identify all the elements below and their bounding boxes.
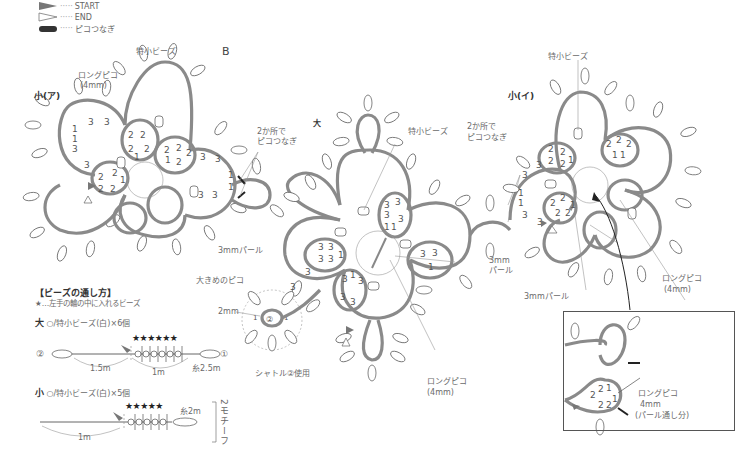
- svg-text:3: 3: [104, 117, 110, 127]
- bead-guide-small-desc: ○/特小ビーズ(白)×5個: [47, 389, 131, 398]
- svg-text:3: 3: [84, 160, 90, 170]
- svg-text:2: 2: [560, 159, 566, 169]
- shuttle-1-label: ①: [220, 349, 228, 359]
- svg-text:3: 3: [200, 152, 206, 162]
- svg-text:3: 3: [522, 170, 528, 180]
- svg-text:3: 3: [290, 282, 296, 292]
- svg-text:2: 2: [128, 144, 134, 154]
- bead-guide-large-label: 大: [35, 318, 44, 328]
- svg-text:2: 2: [98, 184, 104, 194]
- svg-text:1: 1: [570, 200, 576, 210]
- svg-text:3: 3: [305, 267, 311, 277]
- svg-text:3: 3: [215, 154, 221, 164]
- label-join-two-i-1: 2か所で: [467, 122, 496, 131]
- svg-text:3: 3: [384, 210, 390, 220]
- svg-text:3: 3: [318, 242, 324, 252]
- svg-text:1: 1: [72, 124, 78, 134]
- label-shuttle2-used: シャトル②使用: [255, 369, 310, 378]
- bead-guide-large-thread: 糸2.5m: [192, 364, 221, 373]
- bead-guide-small-label: 小: [35, 388, 44, 398]
- label-2mm: 2mm: [218, 307, 239, 316]
- svg-text:2: 2: [565, 208, 571, 218]
- svg-text:1: 1: [568, 155, 574, 165]
- svg-text:3: 3: [72, 144, 78, 154]
- bead-guide-large-desc: ○/特小ビーズ(白)×6個: [47, 319, 131, 328]
- svg-text:2: 2: [176, 143, 182, 153]
- svg-text:2: 2: [164, 145, 170, 155]
- svg-text:1: 1: [518, 188, 524, 198]
- svg-text:2: 2: [144, 144, 150, 154]
- svg-text:2: 2: [606, 139, 612, 149]
- bead-guide-large-len-mid: 1m: [152, 368, 165, 377]
- svg-text:1: 1: [620, 150, 626, 160]
- bead-guide-large-len-left: 1.5m: [90, 364, 111, 373]
- svg-text:3: 3: [350, 297, 356, 307]
- svg-text:2: 2: [626, 139, 632, 149]
- svg-text:1: 1: [350, 270, 356, 280]
- label-pearl-3mm-i-b: 3mmパール: [524, 292, 569, 301]
- label-long-picot-center: ロングピコ: [427, 377, 467, 386]
- svg-text:2: 2: [550, 198, 556, 208]
- svg-text:2: 2: [616, 135, 622, 145]
- svg-text:3: 3: [536, 160, 542, 170]
- bead-guide-small-stars: ★★★★★: [125, 401, 163, 411]
- svg-text:2: 2: [186, 148, 192, 158]
- label-extra-small-bead-i: 特小ビーズ: [548, 52, 588, 61]
- label-extra-small-bead-a: 特小ビーズ: [136, 47, 176, 56]
- motif-label-small-i: 小(イ): [508, 91, 534, 101]
- label-join-two-i-2: ピコつなぎ: [467, 133, 507, 142]
- bead-guide-title: 【ビーズの通し方】: [35, 288, 116, 298]
- bead-guide-large: 大 ○/特小ビーズ(白)×6個: [35, 318, 130, 328]
- label-long-picot-i-size: (4mm): [664, 285, 691, 294]
- svg-text:1: 1: [391, 222, 397, 232]
- svg-text:3: 3: [384, 200, 390, 210]
- inset-size: 4mm: [640, 400, 661, 409]
- svg-text:3: 3: [212, 190, 218, 200]
- svg-text:2: 2: [548, 144, 554, 154]
- end-marker-icon: [84, 196, 92, 203]
- arrow-icon: [592, 192, 600, 202]
- label-long-picot-a-size: (4mm): [80, 81, 107, 90]
- svg-text:1: 1: [120, 175, 126, 185]
- svg-text:2: 2: [548, 156, 554, 166]
- svg-text:2: 2: [140, 130, 146, 140]
- label-pearl-3mm-a: 3mmパール: [218, 246, 263, 255]
- svg-text:3: 3: [328, 242, 334, 252]
- svg-text:3: 3: [318, 254, 324, 264]
- svg-text:2: 2: [555, 208, 561, 218]
- svg-text:1: 1: [384, 222, 390, 232]
- svg-text:1: 1: [338, 250, 344, 260]
- shuttle-2-label: ②: [36, 349, 44, 359]
- svg-text:2: 2: [176, 157, 182, 167]
- svg-text:3: 3: [88, 117, 94, 127]
- svg-text:3: 3: [432, 248, 438, 258]
- svg-text:3: 3: [522, 210, 528, 220]
- svg-text:3: 3: [340, 292, 346, 302]
- svg-text:3: 3: [198, 190, 204, 200]
- bead-guide-star-note: ★…左手の輪の中に入れるビーズ: [35, 300, 140, 309]
- label-large-picot: 大きめのピコ: [196, 276, 244, 285]
- svg-text:②: ②: [266, 315, 273, 324]
- svg-text:1: 1: [228, 170, 234, 180]
- svg-text:1: 1: [428, 262, 434, 272]
- svg-text:1: 1: [134, 152, 140, 162]
- svg-text:3: 3: [395, 197, 401, 207]
- svg-text:1: 1: [612, 150, 618, 160]
- svg-text:1: 1: [518, 198, 524, 208]
- svg-text:3: 3: [420, 249, 426, 259]
- bead-guide-small-len-left: 1m: [78, 433, 91, 442]
- motif-small-a: 133 331 22221 22212 22122 331133: [23, 43, 248, 263]
- svg-text:3: 3: [342, 274, 348, 284]
- svg-text:3: 3: [328, 254, 334, 264]
- svg-text:2: 2: [110, 184, 116, 194]
- svg-text:3: 3: [398, 214, 404, 224]
- svg-text:2: 2: [128, 130, 134, 140]
- label-long-picot-center-size: (4mm): [427, 388, 454, 397]
- bead-guide-large-stars: ★★★★★★: [132, 333, 177, 343]
- label-long-picot-i: ロングピコ: [662, 274, 702, 283]
- inset-long-picot: ロングピコ: [638, 389, 678, 398]
- svg-text:2: 2: [98, 172, 104, 182]
- label-long-picot-a: ロングピコ: [78, 71, 118, 80]
- label-join-two-a-2: ピコつなぎ: [257, 137, 297, 146]
- label-join-two-a-1: 2か所で: [257, 127, 286, 136]
